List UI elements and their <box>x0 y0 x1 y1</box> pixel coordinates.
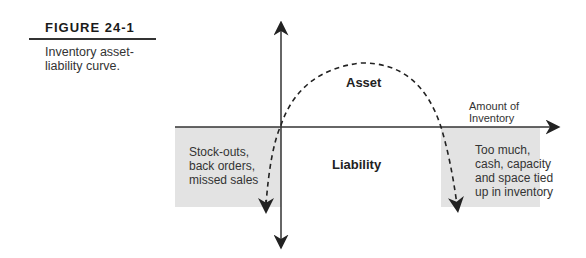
left-box-line: missed sales <box>189 173 258 187</box>
right-box-line: up in inventory <box>475 185 553 199</box>
asset-liability-diagram <box>0 0 586 258</box>
asset-label: Asset <box>346 76 381 90</box>
right-box-text: Too much, cash, capacity and space tied … <box>475 143 553 199</box>
left-box-line: Stock-outs, <box>189 145 258 159</box>
right-box-line: Too much, <box>475 143 553 157</box>
left-box-text: Stock-outs, back orders, missed sales <box>189 145 258 187</box>
x-axis-label-2: Inventory <box>469 111 514 125</box>
right-box-line: cash, capacity <box>475 157 553 171</box>
left-box-line: back orders, <box>189 159 258 173</box>
liability-label: Liability <box>332 158 381 172</box>
right-box-line: and space tied <box>475 171 553 185</box>
